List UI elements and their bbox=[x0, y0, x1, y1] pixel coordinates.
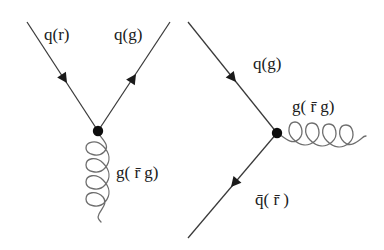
right-gluon-label: g( r̄ g) bbox=[292, 97, 334, 116]
left-outgoing-quark-label: q(g) bbox=[114, 25, 142, 44]
feynman-diagram-figure: q(r) q(g) g( r̄ g) q(g) g( r̄ g) q̄( r̄ … bbox=[0, 0, 384, 250]
left-gluon-label: g( r̄ g) bbox=[116, 163, 158, 182]
right-incoming-quark-label: q(g) bbox=[253, 54, 281, 73]
right-vertex-dot bbox=[272, 128, 282, 138]
left-incoming-quark-label: q(r) bbox=[44, 25, 69, 44]
right-outgoing-antiquark-label: q̄( r̄ ) bbox=[255, 190, 289, 209]
left-vertex-dot bbox=[93, 126, 103, 136]
